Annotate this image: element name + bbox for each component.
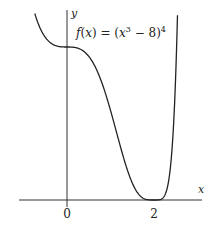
- function-formula: f(x) = (x3 − 8)4: [75, 25, 166, 40]
- x-axis-label: x: [198, 183, 205, 196]
- function-curve: [35, 14, 178, 200]
- x-tick-0: 0: [63, 207, 71, 221]
- x-tick-2: 2: [150, 207, 158, 221]
- y-axis-label: y: [70, 7, 78, 20]
- formula-middle: − 8): [131, 26, 161, 40]
- function-plot: y x 0 2 f(x) = (x3 − 8)4: [0, 0, 215, 233]
- formula-exponent-4: 4: [161, 25, 166, 34]
